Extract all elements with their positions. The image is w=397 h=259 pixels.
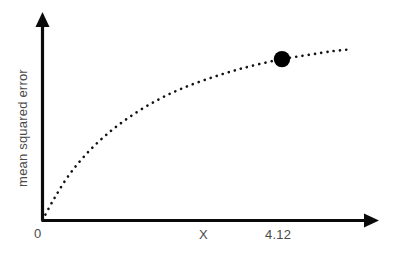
x-axis-arrowhead-icon [364, 214, 379, 228]
x-point-value-label: 4.12 [265, 228, 291, 241]
origin-label: 0 [34, 227, 41, 240]
plot-area [0, 0, 397, 259]
highlighted-data-point-marker[interactable] [274, 51, 290, 67]
x-axis-label: X [199, 228, 208, 241]
y-axis-arrowhead-icon [36, 12, 50, 27]
chart-figure: mean squared error 0 X 4.12 [0, 0, 397, 259]
mse-curve-line [43, 49, 351, 220]
